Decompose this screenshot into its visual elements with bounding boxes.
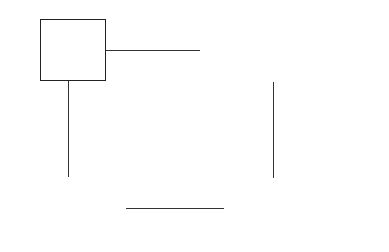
node-original-problems [40,19,106,81]
edge-top [106,50,200,51]
edge-left [68,81,69,177]
edge-right [273,82,274,178]
edge-bottom [126,208,224,209]
